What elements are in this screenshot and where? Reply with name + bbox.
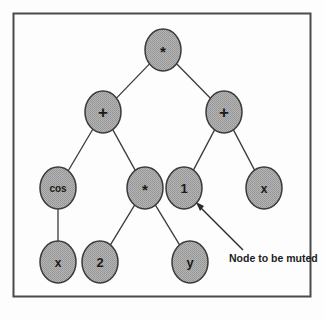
- asterisk-glyph: *: [142, 181, 148, 198]
- text-glyph: x: [55, 256, 62, 270]
- tree-node-mul[interactable]: *: [145, 29, 181, 71]
- tree-edge: [233, 130, 254, 170]
- tree-edge: [68, 129, 93, 170]
- annotation-group: Node to be muted: [196, 202, 318, 264]
- text-glyph: 2: [96, 255, 103, 270]
- expression-tree-diagram: *++cos*1xx2y Node to be muted: [0, 0, 324, 319]
- figure-container: *++cos*1xx2y Node to be muted: [0, 0, 324, 319]
- tree-node-y[interactable]: y: [172, 241, 208, 283]
- text-glyph: x: [261, 182, 268, 196]
- tree-node-mul[interactable]: *: [127, 167, 163, 209]
- plus-glyph: +: [98, 103, 108, 122]
- tree-edge: [113, 130, 136, 171]
- text-glyph: y: [186, 255, 194, 270]
- tree-node-x[interactable]: x: [246, 167, 282, 209]
- tree-node-x[interactable]: x: [40, 241, 76, 283]
- tree-edge: [155, 205, 179, 245]
- tree-node-add[interactable]: +: [85, 91, 121, 133]
- tree-edge: [116, 64, 149, 98]
- text-glyph: 1: [180, 181, 187, 196]
- tree-edge: [193, 130, 214, 170]
- tree-node-add[interactable]: +: [206, 91, 242, 133]
- tree-edge: [177, 64, 211, 98]
- tree-edge: [110, 205, 134, 245]
- tree-node-2[interactable]: 2: [82, 241, 118, 283]
- plus-glyph: +: [219, 103, 229, 122]
- annotation-label: Node to be muted: [229, 252, 318, 264]
- annotation-arrow: [198, 205, 243, 250]
- tree-node-cos[interactable]: cos: [40, 167, 76, 209]
- text-glyph: cos: [49, 183, 67, 194]
- asterisk-glyph: *: [160, 43, 166, 60]
